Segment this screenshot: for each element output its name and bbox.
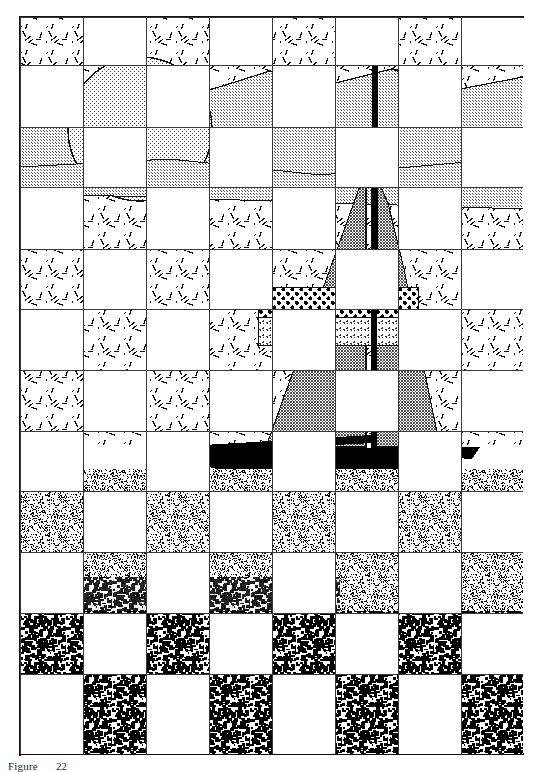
mask-cell-blank bbox=[209, 127, 272, 187]
mask-cell-blank bbox=[335, 249, 398, 309]
mask-cell-blank bbox=[146, 65, 209, 127]
mask-cell-blank bbox=[20, 65, 83, 127]
mask-cell-blank bbox=[272, 65, 335, 127]
caption-number: 22 bbox=[56, 760, 67, 772]
mask-cell-blank bbox=[20, 552, 83, 613]
mask-cell-blank bbox=[209, 249, 272, 309]
mask-cell-blank bbox=[335, 370, 398, 431]
mask-cell-blank bbox=[20, 431, 83, 491]
sailboat-halftone-artwork bbox=[20, 17, 523, 754]
mask-cell-blank bbox=[335, 127, 398, 187]
mask-cell-blank bbox=[398, 65, 461, 127]
figure-image bbox=[20, 17, 523, 754]
mask-cell-blank bbox=[398, 309, 461, 370]
mask-cell-blank bbox=[209, 491, 272, 552]
mask-cell-blank bbox=[146, 309, 209, 370]
mask-cell-blank bbox=[83, 370, 146, 431]
mask-cell-blank bbox=[461, 127, 523, 187]
mask-cell-blank bbox=[461, 17, 523, 65]
mask-cell-blank bbox=[272, 431, 335, 491]
caption-label: Figure bbox=[8, 760, 38, 772]
mask-cell-blank bbox=[146, 552, 209, 613]
mask-cell-blank bbox=[461, 491, 523, 552]
mask-cell-blank bbox=[398, 431, 461, 491]
mask-cell-blank bbox=[335, 613, 398, 674]
mask-cell-blank bbox=[20, 674, 83, 754]
mask-cell-blank bbox=[83, 127, 146, 187]
mask-cell-blank bbox=[398, 187, 461, 249]
mask-cell-blank bbox=[20, 187, 83, 249]
mask-cell-blank bbox=[146, 431, 209, 491]
mask-cell-blank bbox=[83, 491, 146, 552]
mask-cell-blank bbox=[398, 674, 461, 754]
mask-cell-blank bbox=[335, 17, 398, 65]
mask-cell-blank bbox=[272, 674, 335, 754]
mask-cell-blank bbox=[272, 552, 335, 613]
mask-cell-blank bbox=[83, 249, 146, 309]
figure-page: Figure22 bbox=[0, 0, 542, 772]
mask-cell-blank bbox=[209, 370, 272, 431]
mask-cell-blank bbox=[209, 613, 272, 674]
mask-cell-blank bbox=[146, 187, 209, 249]
mask-cell-blank bbox=[83, 613, 146, 674]
mask-cell-blank bbox=[83, 17, 146, 65]
mask-cell-blank bbox=[461, 370, 523, 431]
mask-cell-blank bbox=[398, 552, 461, 613]
mask-cell-blank bbox=[20, 309, 83, 370]
mask-cell-blank bbox=[335, 491, 398, 552]
mask-cell-blank bbox=[461, 613, 523, 674]
figure-caption: Figure22 bbox=[8, 760, 67, 772]
mask-cell-blank bbox=[272, 309, 335, 370]
mask-cell-blank bbox=[209, 17, 272, 65]
mask-cell-blank bbox=[461, 249, 523, 309]
mask-cell-blank bbox=[146, 674, 209, 754]
mask-cell-blank bbox=[272, 187, 335, 249]
